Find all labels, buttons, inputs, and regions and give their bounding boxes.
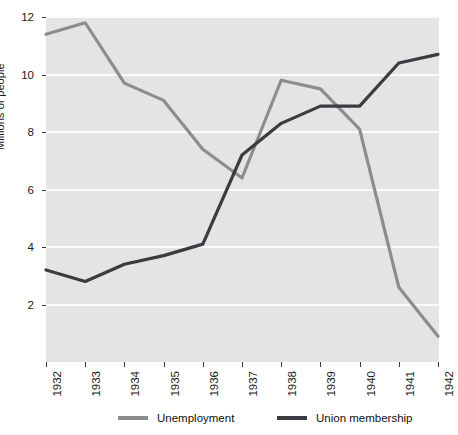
legend-swatch-icon xyxy=(277,416,307,420)
x-tick-label-1937: 1937 xyxy=(247,371,259,397)
line-chart: Millions of people 24681012 193219331934… xyxy=(0,0,458,435)
x-tickmark-1940 xyxy=(360,362,361,367)
x-tickmark-1933 xyxy=(85,362,86,367)
x-tickmark-1934 xyxy=(124,362,125,367)
x-tick-label-1942: 1942 xyxy=(443,371,455,397)
x-tick-label-1941: 1941 xyxy=(404,371,416,397)
x-tick-label-1935: 1935 xyxy=(169,371,181,397)
x-tick-label-1940: 1940 xyxy=(365,371,377,397)
legend-label: Unemployment xyxy=(157,412,234,424)
chart-legend: UnemploymentUnion membership xyxy=(0,412,458,432)
x-tickmark-1935 xyxy=(164,362,165,367)
x-tickmark-1938 xyxy=(281,362,282,367)
x-tick-label-1932: 1932 xyxy=(51,371,63,397)
x-tickmark-1932 xyxy=(46,362,47,367)
legend-item-unemployment[interactable]: Unemployment xyxy=(118,412,234,424)
x-tick-label-1939: 1939 xyxy=(325,371,337,397)
x-tick-label-1934: 1934 xyxy=(129,371,141,397)
x-tickmark-1942 xyxy=(438,362,439,367)
x-tick-label-1936: 1936 xyxy=(208,371,220,397)
legend-item-union-membership[interactable]: Union membership xyxy=(277,412,413,424)
x-tickmark-1941 xyxy=(399,362,400,367)
x-tick-label-1938: 1938 xyxy=(286,371,298,397)
x-tick-label-1933: 1933 xyxy=(90,371,102,397)
x-tickmark-1936 xyxy=(203,362,204,367)
x-tickmark-1939 xyxy=(320,362,321,367)
x-tickmark-1937 xyxy=(242,362,243,367)
x-axis-ticks: 1932193319341935193619371938193919401941… xyxy=(0,0,458,435)
legend-label: Union membership xyxy=(316,412,413,424)
legend-swatch-icon xyxy=(118,416,148,420)
